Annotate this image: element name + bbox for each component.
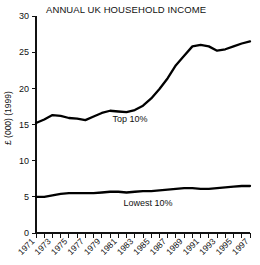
chart-title: ANNUAL UK HOUSEHOLD INCOME xyxy=(46,4,206,15)
chart-container: ANNUAL UK HOUSEHOLD INCOME £ (000) (1999… xyxy=(0,0,260,265)
x-tick-label: 1973 xyxy=(32,236,53,257)
x-tick-label: 1987 xyxy=(148,236,169,257)
x-tick-label: 1979 xyxy=(82,236,103,257)
annotation-lowest-10: Lowest 10% xyxy=(123,198,172,208)
y-axis: 051015202530 xyxy=(19,11,36,238)
x-tick-label: 1977 xyxy=(65,236,86,257)
y-tick-label: 20 xyxy=(19,84,29,94)
x-axis: 1971197319751977197919811983198519871989… xyxy=(16,233,251,257)
y-tick-label: 15 xyxy=(19,120,29,130)
x-tick-label: 1983 xyxy=(115,236,136,257)
annotation-top-10: Top 10% xyxy=(112,114,147,124)
y-axis-title: £ (000) (1999) xyxy=(3,91,13,145)
x-tick-label: 1975 xyxy=(49,236,70,257)
x-tick-label: 1981 xyxy=(98,236,119,257)
series-line-top-10 xyxy=(36,41,250,123)
x-tick-label: 1989 xyxy=(164,236,185,257)
y-tick-label: 5 xyxy=(24,192,29,202)
x-tick-label: 1971 xyxy=(16,236,37,257)
x-tick-label: 1985 xyxy=(131,236,152,257)
x-tick-label: 1995 xyxy=(214,236,235,257)
series-line-lowest-10 xyxy=(36,186,250,197)
x-tick-label: 1993 xyxy=(197,236,218,257)
x-tick-label: 1991 xyxy=(181,236,202,257)
line-chart: ANNUAL UK HOUSEHOLD INCOME £ (000) (1999… xyxy=(0,0,260,265)
y-tick-label: 10 xyxy=(19,156,29,166)
y-tick-label: 30 xyxy=(19,11,29,21)
y-tick-label: 25 xyxy=(19,47,29,57)
series-annotations: Top 10%Lowest 10% xyxy=(112,114,172,208)
x-tick-label: 1997 xyxy=(230,236,251,257)
